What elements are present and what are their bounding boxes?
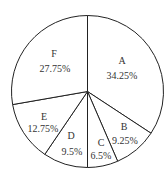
slice-label-a: A [118,55,126,66]
pie-slice-f [11,16,87,105]
slice-percent-c: 6.5% [91,150,112,161]
slice-label-b: B [121,121,128,132]
slice-percent-d: 9.5% [62,146,83,157]
slice-label-f: F [51,48,57,59]
slice-label-d: D [67,130,74,141]
slice-percent-a: 34.25% [107,70,138,81]
slice-percent-b: 9.25% [112,135,138,146]
slice-percent-e: 12.75% [28,123,59,134]
slice-label-e: E [41,111,47,122]
slice-label-c: C [98,137,105,148]
pie-chart: A34.25%B9.25%C6.5%D9.5%E12.75%F27.75% [0,0,167,178]
slice-percent-f: 27.75% [40,63,71,74]
